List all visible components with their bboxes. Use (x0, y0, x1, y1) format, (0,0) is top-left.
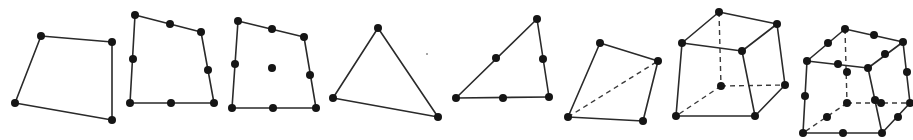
node-dot (738, 47, 746, 55)
node-dot (654, 57, 662, 65)
edge (600, 43, 658, 61)
element-hex20 (799, 25, 913, 137)
node-dot (781, 81, 789, 89)
edge (333, 28, 378, 98)
edge (719, 12, 777, 24)
edge (742, 24, 777, 51)
node-dot (877, 99, 885, 107)
node-dot (903, 68, 911, 76)
edge (755, 85, 785, 116)
node-dot (374, 24, 382, 32)
node-dot (843, 68, 851, 76)
node-dot (803, 57, 811, 65)
node-dot (499, 94, 507, 102)
node-dot (841, 25, 849, 33)
node-dot (564, 113, 572, 121)
edge (15, 103, 112, 120)
node-dot (843, 99, 851, 107)
hidden-edge (719, 12, 721, 86)
node-dot (539, 55, 547, 63)
node-dot (799, 129, 807, 137)
edge (682, 43, 742, 51)
node-dot (131, 11, 139, 19)
edge (333, 98, 438, 117)
speck-mark (426, 53, 428, 55)
edge (742, 51, 755, 116)
hidden-edge (721, 85, 785, 86)
node-dot (823, 113, 831, 121)
node-dot (37, 32, 45, 40)
node-dot (717, 82, 725, 90)
edge (777, 24, 785, 85)
hidden-edge (676, 86, 721, 116)
node-dot (166, 20, 174, 28)
element-tri3 (329, 24, 442, 121)
element-hex8 (672, 8, 789, 120)
edge (15, 36, 41, 103)
node-dot (492, 54, 500, 62)
node-dot (839, 129, 847, 137)
node-dot (11, 99, 19, 107)
node-dot (801, 92, 809, 100)
node-dot (678, 39, 686, 47)
element-quad4 (11, 32, 116, 124)
node-dot (268, 64, 276, 72)
node-dot (268, 25, 276, 33)
node-dot (269, 104, 277, 112)
node-dot (300, 33, 308, 41)
edge (676, 43, 682, 116)
node-dot (306, 71, 314, 79)
node-dot (204, 66, 212, 74)
node-dot (231, 60, 239, 68)
node-dot (329, 94, 337, 102)
node-dot (870, 31, 878, 39)
node-dot (197, 28, 205, 36)
edge (682, 12, 719, 43)
node-dot (899, 38, 907, 46)
node-dot (824, 39, 832, 47)
node-dot (108, 116, 116, 124)
node-dot (228, 104, 236, 112)
node-dot (452, 94, 460, 102)
node-dot (312, 104, 320, 112)
element-quad8 (126, 11, 218, 107)
node-dot (126, 99, 134, 107)
edge (378, 28, 438, 117)
node-dot (167, 99, 175, 107)
node-dot (596, 39, 604, 47)
node-dot (881, 50, 889, 58)
node-dot (234, 17, 242, 25)
node-dot (672, 112, 680, 120)
node-dot (108, 38, 116, 46)
node-dot (715, 8, 723, 16)
node-dot (864, 64, 872, 72)
node-dot (434, 113, 442, 121)
edge (41, 36, 112, 42)
finite-element-types-diagram (0, 0, 913, 140)
node-dot (834, 60, 842, 68)
node-dot (545, 93, 553, 101)
node-dot (639, 117, 647, 125)
element-quad9 (228, 17, 320, 112)
edge (643, 61, 658, 121)
node-dot (129, 55, 137, 63)
node-dot (210, 99, 218, 107)
node-dot (894, 113, 902, 121)
element-tet4 (564, 39, 662, 125)
node-dot (751, 112, 759, 120)
hidden-edge (568, 61, 658, 117)
edge (568, 117, 643, 121)
edge (568, 43, 600, 117)
element-tri6 (452, 15, 553, 102)
node-dot (878, 129, 886, 137)
node-dot (533, 15, 541, 23)
node-dot (773, 20, 781, 28)
